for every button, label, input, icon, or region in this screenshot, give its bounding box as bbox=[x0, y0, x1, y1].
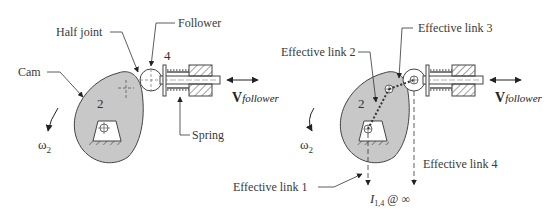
label-follower: Follower bbox=[178, 17, 221, 30]
label-spring: Spring bbox=[192, 129, 224, 142]
label-link-2-left: 2 bbox=[97, 96, 104, 112]
label-omega-right: ω2 bbox=[300, 137, 313, 155]
left-follower bbox=[140, 65, 220, 96]
label-effective-link-1: Effective link 1 bbox=[233, 181, 307, 194]
label-velocity-left: Vfollower bbox=[232, 90, 279, 106]
label-effective-link-4: Effective link 4 bbox=[423, 158, 497, 171]
label-velocity-right: Vfollower bbox=[495, 90, 542, 106]
label-effective-link-2: Effective link 2 bbox=[281, 46, 355, 59]
label-link-2-right: 2 bbox=[358, 96, 365, 112]
cam-follower-diagram: Half joint Follower Cam Spring 2 4 ω2 Vf… bbox=[0, 0, 559, 217]
label-link-4-left: 4 bbox=[164, 48, 171, 64]
label-effective-link-3: Effective link 3 bbox=[418, 22, 492, 35]
label-cam: Cam bbox=[18, 66, 41, 79]
label-instant-center: I1,4 @ ∞ bbox=[370, 191, 410, 208]
label-omega-left: ω2 bbox=[38, 137, 51, 155]
left-cam bbox=[74, 72, 143, 163]
right-follower bbox=[403, 65, 483, 96]
label-half-joint: Half joint bbox=[56, 26, 102, 39]
